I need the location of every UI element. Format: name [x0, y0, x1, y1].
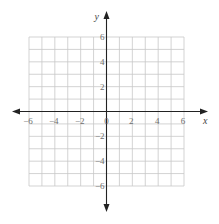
y-tick-label: −6 [95, 181, 105, 191]
axes [12, 11, 208, 212]
x-tick-label: 2 [129, 116, 134, 126]
y-tick-label: −2 [95, 131, 105, 141]
x-tick-label: −2 [75, 116, 85, 126]
y-axis-label: y [94, 11, 100, 22]
y-tick-label: 6 [100, 32, 105, 42]
x-axis-left-arrow-icon [12, 109, 20, 115]
coordinate-plane: −6−4−20246642−2−4−6 x y [0, 0, 219, 224]
x-tick-label: −6 [23, 116, 33, 126]
x-tick-label: 6 [181, 116, 186, 126]
y-axis-down-arrow-icon [104, 204, 110, 212]
y-tick-label: 4 [100, 57, 105, 67]
x-tick-label: −4 [49, 116, 59, 126]
y-tick-label: 2 [100, 82, 105, 92]
x-tick-label: 4 [155, 116, 160, 126]
y-axis-up-arrow-icon [104, 11, 110, 19]
y-tick-label: −4 [95, 156, 105, 166]
x-axis-label: x [202, 115, 208, 126]
x-tick-label: 0 [104, 116, 109, 126]
